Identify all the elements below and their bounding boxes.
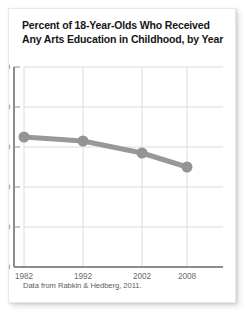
x-tick-label-2008: 2008 — [178, 272, 197, 279]
y-tick-label-80: 80 — [9, 103, 10, 112]
chart-title-line-2: Any Arts Education in Childhood, by Year — [22, 33, 228, 47]
x-tick-label-1992: 1992 — [74, 272, 93, 279]
chart-title-line-1: Percent of 18-Year-Olds Who Received — [22, 19, 228, 33]
data-point-1992 — [78, 136, 89, 147]
chart-title: Percent of 18-Year-Olds Who Received Any… — [22, 19, 228, 46]
x-tick-label-2002: 2002 — [133, 272, 152, 279]
y-tick-label-0: 0 — [9, 263, 10, 272]
x-tick-label-1982: 1982 — [15, 272, 34, 279]
line-chart-svg: 100 80 60 40 20 0 1982 1992 2002 2008 — [9, 49, 237, 279]
y-tick-label-100: 100 — [9, 63, 10, 72]
plot-area: 100 80 60 40 20 0 1982 1992 2002 2008 — [9, 49, 237, 279]
data-point-2008 — [182, 162, 193, 173]
y-tick-label-60: 60 — [9, 143, 10, 152]
data-point-2002 — [137, 148, 148, 159]
y-axis-tick-labels: 100 80 60 40 20 0 — [9, 63, 10, 272]
figure-card: Percent of 18-Year-Olds Who Received Any… — [8, 8, 236, 303]
y-tick-label-20: 20 — [9, 223, 10, 232]
gridlines-vertical — [24, 67, 187, 267]
data-line-series-1 — [24, 137, 187, 167]
data-point-1982 — [19, 132, 30, 143]
chart-source-caption: Data from Rabkin & Hedberg, 2011. — [23, 281, 142, 290]
x-axis-tick-labels: 1982 1992 2002 2008 — [15, 272, 197, 279]
y-tick-label-40: 40 — [9, 183, 10, 192]
